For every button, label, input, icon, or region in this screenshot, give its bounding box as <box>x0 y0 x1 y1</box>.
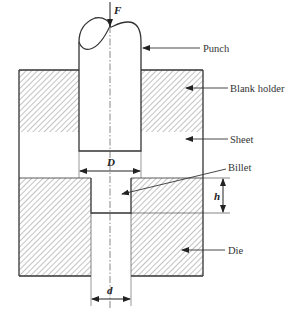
svg-text:h: h <box>214 190 220 202</box>
extrusion-diagram: F Punch Blank holder Sheet Billet Die D … <box>0 0 300 320</box>
dimension-d: d <box>91 276 131 306</box>
svg-text:F: F <box>113 4 122 16</box>
force-arrow: F <box>110 2 122 26</box>
svg-text:d: d <box>107 284 113 296</box>
label-punch: Punch <box>203 43 230 54</box>
die <box>19 178 203 276</box>
label-billet: Billet <box>228 162 251 173</box>
label-blank-holder: Blank holder <box>230 83 285 94</box>
dimension-h: h <box>214 179 223 212</box>
label-die: Die <box>228 245 244 256</box>
label-sheet: Sheet <box>230 134 253 145</box>
svg-text:D: D <box>106 156 115 168</box>
